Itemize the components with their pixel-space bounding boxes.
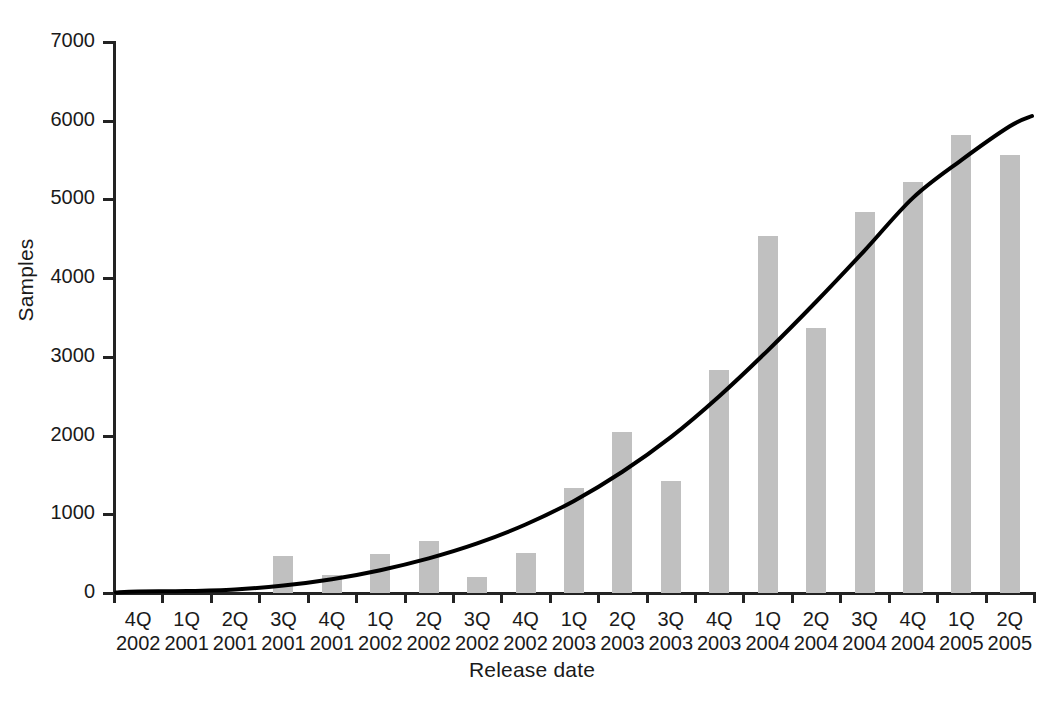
x-axis-tick [500, 592, 503, 603]
chart-root: Samples 01000200030004000500060007000 4Q… [0, 0, 1064, 711]
y-axis-tick [103, 356, 114, 359]
bar [516, 553, 536, 593]
y-axis-tick [103, 41, 114, 44]
bar [467, 577, 487, 593]
plot-area [114, 42, 1034, 593]
x-axis-tick [936, 592, 939, 603]
x-axis-tick [646, 592, 649, 603]
x-axis-tick [404, 592, 407, 603]
x-axis-tick [1033, 592, 1036, 603]
x-axis-tick [355, 592, 358, 603]
x-axis-tick [161, 592, 164, 603]
bar [661, 481, 681, 593]
x-axis-tick [791, 592, 794, 603]
y-axis-tick [103, 435, 114, 438]
bar [419, 541, 439, 593]
bar [322, 575, 342, 593]
x-axis-tick [839, 592, 842, 603]
x-axis-tick [694, 592, 697, 603]
x-axis-title: Release date [0, 658, 1064, 682]
y-axis-tick [103, 513, 114, 516]
bar [273, 556, 293, 593]
x-axis-tick [113, 592, 116, 603]
y-axis-tick-label: 5000 [15, 186, 95, 209]
bar [370, 554, 390, 593]
y-axis-tick [103, 120, 114, 123]
bar [758, 236, 778, 593]
y-axis-tick-label: 3000 [15, 344, 95, 367]
bar [903, 182, 923, 593]
bar [1000, 155, 1020, 593]
x-axis-tick [210, 592, 213, 603]
y-axis-tick-label: 6000 [15, 108, 95, 131]
y-axis-tick-label: 4000 [15, 265, 95, 288]
y-axis-tick-label: 2000 [15, 423, 95, 446]
y-axis-tick [103, 277, 114, 280]
x-axis-tick-label: 2Q2005 [964, 607, 1056, 655]
x-axis-tick [985, 592, 988, 603]
x-axis-tick-year: 2005 [964, 631, 1056, 655]
bar [564, 488, 584, 593]
x-axis-tick [549, 592, 552, 603]
x-axis-tick [258, 592, 261, 603]
y-axis-tick [103, 198, 114, 201]
x-axis-tick [742, 592, 745, 603]
x-axis-tick-quarter: 2Q [964, 607, 1056, 631]
bar [806, 328, 826, 593]
x-axis-tick [888, 592, 891, 603]
bar [855, 212, 875, 593]
bar [612, 432, 632, 593]
y-axis-tick-label: 1000 [15, 501, 95, 524]
bar [951, 135, 971, 593]
y-axis-tick-label: 0 [15, 580, 95, 603]
x-axis-tick [307, 592, 310, 603]
bar [709, 370, 729, 593]
x-axis-tick [452, 592, 455, 603]
y-axis-tick-label: 7000 [15, 29, 95, 52]
x-axis-tick [597, 592, 600, 603]
